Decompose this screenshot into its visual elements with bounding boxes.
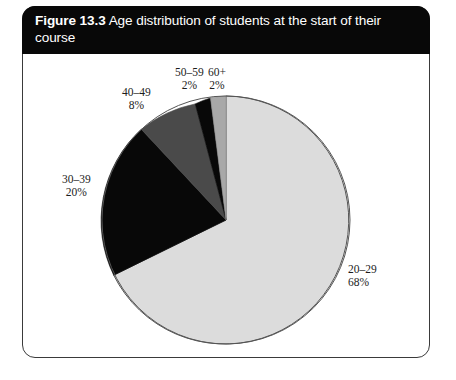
figure-container: Figure 13.3 Age distribution of students…: [0, 0, 456, 380]
pie-chart-svg: [22, 52, 430, 358]
pie-label-20-29: 20–29 68%: [348, 263, 377, 288]
pie-label-60-plus: 60+ 2%: [208, 66, 226, 91]
pie-label-50-59: 50–59 2%: [175, 66, 204, 91]
figure-caption: Figure 13.3 Age distribution of students…: [35, 13, 416, 46]
pie-label-30-39-category: 30–39: [62, 173, 91, 186]
pie-label-60-plus-value: 2%: [208, 79, 226, 92]
figure-header-bar: Figure 13.3 Age distribution of students…: [22, 6, 430, 54]
figure-number: Figure 13.3: [35, 13, 106, 28]
pie-label-20-29-category: 20–29: [348, 263, 377, 276]
pie-label-40-49-category: 40–49: [122, 86, 151, 99]
pie-label-50-59-category: 50–59: [175, 66, 204, 79]
pie-label-20-29-value: 68%: [348, 276, 377, 289]
pie-chart-plot-area: [22, 52, 430, 358]
pie-label-30-39-value: 20%: [62, 186, 91, 199]
pie-label-40-49-value: 8%: [122, 99, 151, 112]
pie-label-30-39: 30–39 20%: [62, 173, 91, 198]
pie-label-50-59-value: 2%: [175, 79, 204, 92]
pie-label-60-plus-category: 60+: [208, 66, 226, 79]
pie-label-40-49: 40–49 8%: [122, 86, 151, 111]
